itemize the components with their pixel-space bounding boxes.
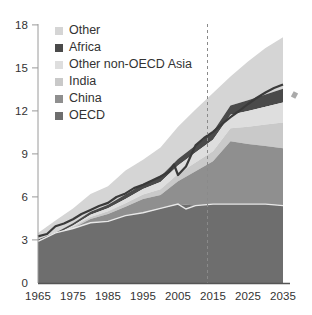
x-tick-label-2025: 2025 xyxy=(231,290,265,302)
legend-label-other: Other xyxy=(69,22,100,39)
x-tick-label-2015: 2015 xyxy=(196,290,230,302)
y-axis-ticks xyxy=(32,25,38,240)
legend-item-other-non-oecd-asia[interactable]: Other non-OECD Asia xyxy=(55,56,192,73)
legend-swatch-africa-icon xyxy=(55,44,63,52)
x-tick-label-1995: 1995 xyxy=(126,290,160,302)
legend-swatch-oecd-icon xyxy=(55,112,63,120)
y-tick-label-3: 3 xyxy=(6,234,28,246)
x-tick-label-1985: 1985 xyxy=(91,290,125,302)
legend-swatch-other-non-oecd-asia-icon xyxy=(55,61,63,69)
y-tick-label-12: 12 xyxy=(6,105,28,117)
legend-swatch-china-icon xyxy=(55,95,63,103)
legend-item-china[interactable]: China xyxy=(55,90,192,107)
legend-label-india: India xyxy=(69,73,96,90)
legend-item-oecd[interactable]: OECD xyxy=(55,107,192,124)
legend-swatch-india-icon xyxy=(55,78,63,86)
y-tick-label-6: 6 xyxy=(6,191,28,203)
y-tick-label-15: 15 xyxy=(6,62,28,74)
legend-swatch-other-icon xyxy=(55,27,63,35)
chart-legend: Other Africa Other non-OECD Asia India C… xyxy=(55,22,192,124)
legend-label-other-non-oecd-asia: Other non-OECD Asia xyxy=(69,56,192,73)
x-tick-label-1975: 1975 xyxy=(56,290,90,302)
stacked-area-chart: 18 15 12 9 6 3 0 1965 1975 1985 1995 200… xyxy=(0,0,312,315)
legend-label-africa: Africa xyxy=(69,39,101,56)
legend-label-china: China xyxy=(69,90,102,107)
legend-item-india[interactable]: India xyxy=(55,73,192,90)
legend-label-oecd: OECD xyxy=(69,107,105,124)
x-tick-label-2005: 2005 xyxy=(161,290,195,302)
legend-item-africa[interactable]: Africa xyxy=(55,39,192,56)
y-tick-label-9: 9 xyxy=(6,148,28,160)
legend-item-other[interactable]: Other xyxy=(55,22,192,39)
y-tick-label-0: 0 xyxy=(6,277,28,289)
x-tick-label-2035: 2035 xyxy=(266,290,300,302)
y-tick-label-18: 18 xyxy=(6,19,28,31)
x-tick-label-1965: 1965 xyxy=(21,290,55,302)
